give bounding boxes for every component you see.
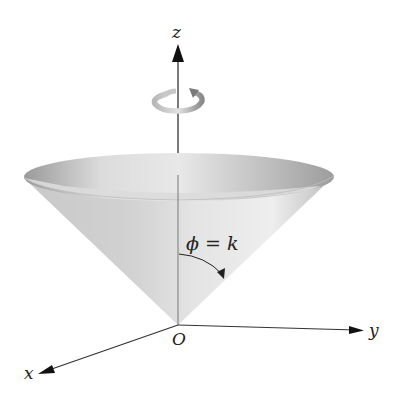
y-axis-label: y [368, 320, 379, 340]
z-axis-label: z [171, 22, 182, 42]
z-axis-arrowhead-icon [172, 44, 184, 62]
origin-label: O [172, 329, 186, 349]
x-axis-label: x [24, 363, 34, 383]
y-axis-arrowhead-icon [349, 326, 364, 334]
y-axis: y [178, 320, 379, 340]
x-axis: x [24, 325, 178, 383]
angle-equation-label: ϕ = k [186, 232, 238, 254]
cone [24, 153, 334, 325]
x-axis-arrowhead-icon [38, 365, 55, 374]
cone-diagram: ϕ = k y x z O [0, 0, 395, 412]
